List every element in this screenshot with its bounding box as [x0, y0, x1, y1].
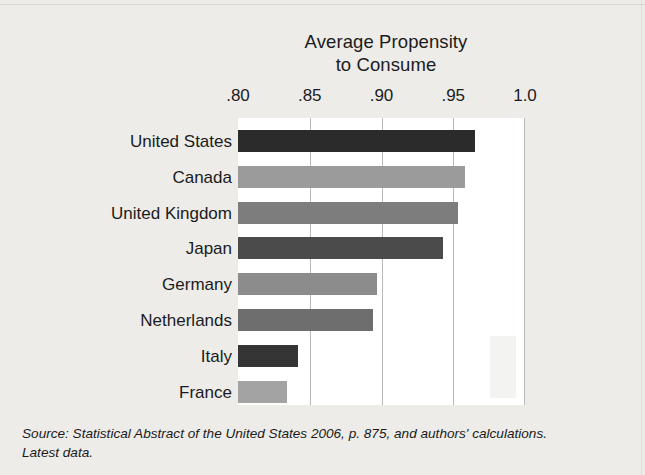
category-label: United Kingdom [111, 203, 232, 225]
gridline [453, 118, 454, 405]
chart-title: Average Propensity to Consume [238, 30, 534, 76]
source-note: Source: Statistical Abstract of the Unit… [22, 424, 622, 462]
category-label: Japan [186, 238, 232, 260]
x-tick-label: .95 [441, 86, 465, 106]
source-line-2: Latest data. [22, 443, 622, 462]
source-line-1: Source: Statistical Abstract of the Unit… [22, 424, 622, 443]
bar [238, 166, 465, 188]
page-rule-top [0, 4, 645, 5]
plot-area [238, 118, 525, 405]
x-tick-label: .85 [298, 86, 322, 106]
category-label: Italy [201, 346, 232, 368]
chart-title-line-1: Average Propensity [238, 30, 534, 53]
category-label: Netherlands [140, 310, 232, 332]
scan-artifact [490, 336, 516, 398]
bar [238, 237, 443, 259]
category-label: United States [130, 131, 232, 153]
bar [238, 202, 458, 224]
category-label: France [179, 382, 232, 404]
gridline [524, 118, 525, 405]
y-axis-category-labels: United StatesCanadaUnited KingdomJapanGe… [10, 118, 232, 405]
gridline [310, 118, 311, 405]
bar [238, 381, 287, 403]
gridline [382, 118, 383, 405]
x-tick-label: 1.0 [513, 86, 537, 106]
bar [238, 309, 373, 331]
page-rule-right [641, 0, 642, 475]
x-tick-label: .80 [226, 86, 250, 106]
bar [238, 130, 475, 152]
x-tick-label: .90 [370, 86, 394, 106]
x-axis-tick-labels: .80.85.90.951.0 [238, 86, 534, 108]
bar [238, 273, 377, 295]
category-label: Germany [162, 274, 232, 296]
category-label: Canada [172, 167, 232, 189]
chart-title-line-2: to Consume [238, 53, 534, 76]
bar [238, 345, 298, 367]
chart-figure: Average Propensity to Consume .80.85.90.… [0, 0, 645, 475]
